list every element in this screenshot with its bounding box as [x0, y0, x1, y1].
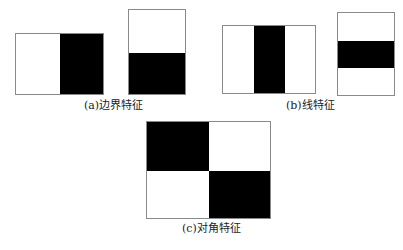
edge-feature-left-right [15, 33, 104, 95]
edge-feature-top-bottom [128, 9, 186, 95]
line-feature-horizontal [337, 12, 395, 96]
black-region [129, 53, 185, 94]
caption-c: (c)对角特征 [182, 222, 241, 235]
black-region-top-left [147, 122, 209, 171]
black-region [60, 34, 103, 94]
caption-a: (a)边界特征 [84, 99, 143, 112]
diagonal-feature [146, 121, 271, 219]
caption-b: (b)线特征 [286, 99, 335, 112]
black-region-bottom-right [209, 171, 270, 218]
black-region [254, 26, 285, 93]
black-region [338, 41, 394, 68]
line-feature-vertical [222, 25, 316, 94]
